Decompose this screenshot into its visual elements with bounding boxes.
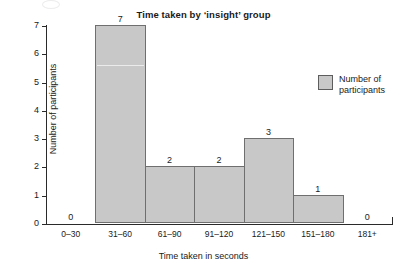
bar-value-label: 2: [194, 155, 243, 165]
y-axis-tick: 5: [42, 83, 46, 84]
bar-value-label: 7: [95, 14, 144, 24]
scan-artifact: [42, 0, 60, 9]
bar-value-label: 0: [343, 212, 392, 222]
y-axis-tick: 4: [42, 111, 46, 112]
x-axis-endcap: [392, 217, 393, 225]
x-axis-tick-label: 0–30: [46, 229, 95, 239]
bar: [95, 25, 145, 223]
x-axis-tick-label: 61–90: [145, 229, 194, 239]
y-axis-tick-label: 4: [34, 105, 39, 116]
bar: [194, 166, 244, 223]
y-axis-tick-label: 2: [34, 161, 39, 172]
y-axis-title: Number of participants: [48, 9, 58, 209]
y-axis-tick-label: 3: [34, 133, 39, 144]
legend-label: Number of participants: [339, 74, 385, 95]
x-axis-tick-label: 31–60: [95, 229, 144, 239]
y-axis-tick-label: 5: [34, 77, 39, 88]
bar-value-label: 2: [145, 155, 194, 165]
y-axis-tick: 6: [42, 54, 46, 55]
bar: [145, 166, 195, 223]
y-axis-tick: 1: [42, 196, 46, 197]
x-axis-line: [46, 224, 393, 225]
y-axis-tick: 2: [42, 167, 46, 168]
x-axis-tick-label: 181+: [343, 229, 392, 239]
legend: Number of participants: [318, 74, 385, 95]
chart-title: Time taken by ‘insight’ group: [0, 9, 407, 20]
y-axis-line: [46, 25, 47, 225]
y-axis-tick: 0: [42, 224, 46, 225]
bar-value-label: 1: [293, 184, 342, 194]
x-axis-tick-label: 121–150: [244, 229, 293, 239]
bar-value-label: 3: [244, 127, 293, 137]
y-axis-tick: 3: [42, 139, 46, 140]
bar-value-label: 0: [46, 212, 95, 222]
y-axis-tick: 7: [42, 26, 46, 27]
y-axis-tick-label: 6: [34, 48, 39, 59]
histogram-figure: Time taken by ‘insight’ group 01234567 0…: [0, 0, 407, 274]
x-axis-tick-label: 151–180: [293, 229, 342, 239]
bar: [293, 195, 343, 223]
bar: [244, 138, 294, 223]
y-axis-tick-label: 1: [34, 190, 39, 201]
x-axis-title: Time taken in seconds: [0, 251, 407, 261]
y-axis-tick-label: 7: [34, 20, 39, 31]
x-axis-tick-label: 91–120: [194, 229, 243, 239]
y-axis-tick-label: 0: [34, 218, 39, 229]
legend-swatch-icon: [318, 75, 333, 90]
plot-area: 01234567 0722310 0–3031–6061–9091–120121…: [46, 25, 392, 224]
bar-scan-band: [97, 65, 143, 66]
